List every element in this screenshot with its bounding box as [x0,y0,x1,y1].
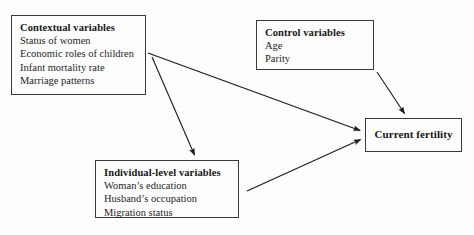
diagram-canvas: Contextual variables Status of women Eco… [0,0,474,235]
node-contextual-item-2: Infant mortality rate [20,61,138,74]
node-individual-title: Individual-level variables [104,166,231,179]
node-contextual-variables[interactable]: Contextual variables Status of women Eco… [11,15,146,95]
node-fertility-title: Current fertility [374,128,452,141]
node-individual-item-1: Husband’s occupation [104,192,231,205]
node-contextual-title: Contextual variables [20,21,138,34]
arrow-contextual-to-individual [152,57,195,155]
node-individual-item-2: Migration status [104,206,231,219]
node-individual-item-0: Woman’s education [104,179,231,192]
arrow-control-to-fertility [377,72,405,114]
node-current-fertility[interactable]: Current fertility [365,118,462,152]
arrow-individual-to-fertility [247,140,361,192]
node-individual-level-variables[interactable]: Individual-level variables Woman’s educa… [95,160,239,218]
node-contextual-item-1: Economic roles of children [20,47,138,60]
node-control-variables[interactable]: Control variables Age Parity [256,20,374,70]
node-control-item-1: Parity [265,52,366,65]
node-control-title: Control variables [265,26,366,39]
node-contextual-item-0: Status of women [20,34,138,47]
node-control-item-0: Age [265,39,366,52]
node-contextual-item-3: Marriage patterns [20,74,138,87]
